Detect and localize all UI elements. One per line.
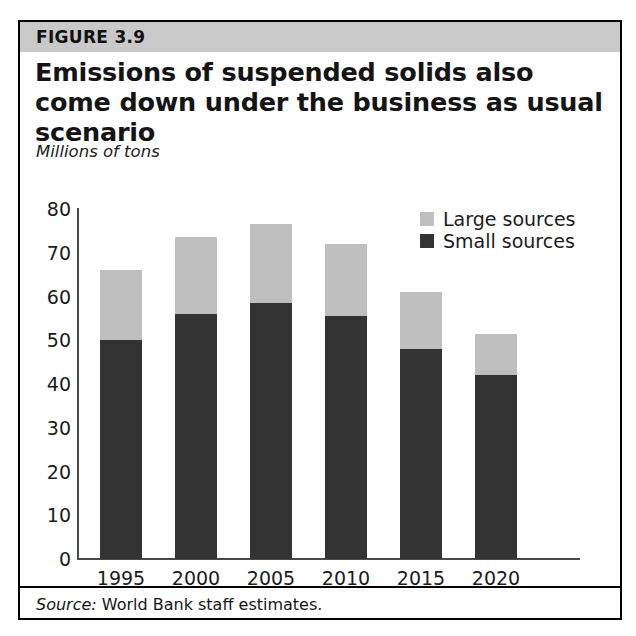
- y-axis-line: [77, 208, 79, 559]
- bar-segment-small-sources-1995[interactable]: [100, 340, 142, 559]
- chart-legend: Large sourcesSmall sources: [420, 208, 576, 252]
- bar-segment-large-sources-2020[interactable]: [475, 334, 517, 376]
- bar-2015[interactable]: [400, 22, 442, 622]
- source-label: Source:: [36, 595, 97, 614]
- bar-segment-large-sources-1995[interactable]: [100, 270, 142, 340]
- y-axis-tick-30: 30: [25, 417, 71, 439]
- bar-2005[interactable]: [250, 22, 292, 622]
- chart-plot-area: 80706050403020100 1995200020052010201520…: [20, 22, 624, 622]
- bar-2020[interactable]: [475, 22, 517, 622]
- y-axis-tick-0: 0: [25, 548, 71, 570]
- y-axis-tick-80: 80: [25, 198, 71, 220]
- y-axis-tick-20: 20: [25, 461, 71, 483]
- bar-segment-large-sources-2005[interactable]: [250, 224, 292, 303]
- y-axis-tick-40: 40: [25, 373, 71, 395]
- legend-label: Large sources: [443, 208, 576, 230]
- y-axis-tick-50: 50: [25, 329, 71, 351]
- legend-label: Small sources: [443, 230, 575, 252]
- y-axis-tick-70: 70: [25, 242, 71, 264]
- legend-swatch-icon: [420, 212, 434, 226]
- bar-segment-large-sources-2000[interactable]: [175, 237, 217, 314]
- source-divider: [20, 586, 620, 588]
- bar-segment-small-sources-2000[interactable]: [175, 314, 217, 559]
- y-axis-tick-10: 10: [25, 504, 71, 526]
- bar-2010[interactable]: [325, 22, 367, 622]
- bar-segment-small-sources-2010[interactable]: [325, 316, 367, 559]
- bar-segment-large-sources-2015[interactable]: [400, 292, 442, 349]
- y-axis-tick-labels: 80706050403020100: [20, 22, 71, 622]
- bar-segment-small-sources-2005[interactable]: [250, 303, 292, 559]
- y-axis-tick-60: 60: [25, 286, 71, 308]
- bar-segment-small-sources-2020[interactable]: [475, 375, 517, 559]
- source-note: Source: World Bank staff estimates.: [36, 595, 322, 614]
- bar-2000[interactable]: [175, 22, 217, 622]
- bar-1995[interactable]: [100, 22, 142, 622]
- source-text: World Bank staff estimates.: [102, 595, 323, 614]
- legend-swatch-icon: [420, 234, 434, 248]
- figure-frame: FIGURE 3.9 Emissions of suspended solids…: [18, 20, 622, 620]
- bar-segment-large-sources-2010[interactable]: [325, 244, 367, 316]
- legend-item-small-sources[interactable]: Small sources: [420, 230, 576, 252]
- legend-item-large-sources[interactable]: Large sources: [420, 208, 576, 230]
- bar-segment-small-sources-2015[interactable]: [400, 349, 442, 559]
